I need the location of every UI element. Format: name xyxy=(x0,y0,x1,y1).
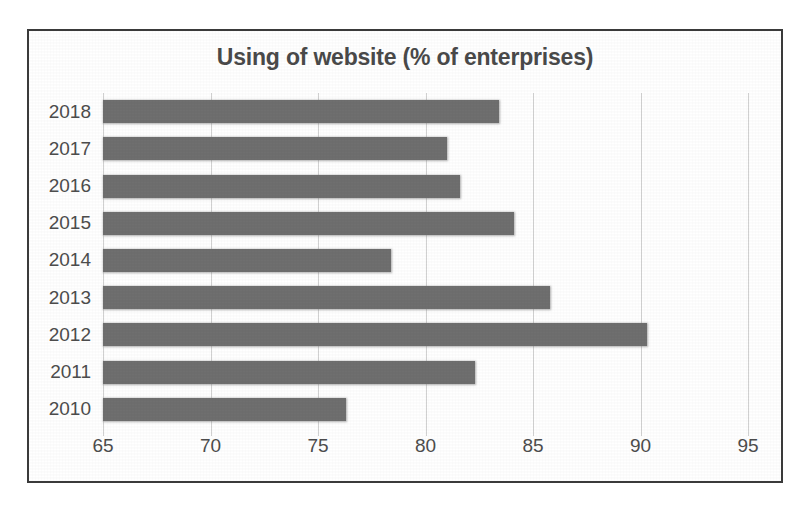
x-axis-label-65: 65 xyxy=(92,435,113,457)
x-axis-label-80: 80 xyxy=(415,435,436,457)
chart-frame: Using of website (% of enterprises) 2018… xyxy=(27,29,783,483)
bar-2018 xyxy=(103,100,499,123)
bar-2017 xyxy=(103,137,447,160)
x-axis-tick-labels: 65707580859095 xyxy=(103,435,748,467)
bar-2016 xyxy=(103,175,460,198)
y-axis-label-2010: 2010 xyxy=(49,391,91,428)
bar-row xyxy=(103,279,748,316)
bar-2014 xyxy=(103,249,391,272)
chart-title: Using of website (% of enterprises) xyxy=(29,44,781,71)
bar-row xyxy=(103,130,748,167)
y-axis-label-2011: 2011 xyxy=(50,354,91,391)
bar-2013 xyxy=(103,286,550,309)
y-axis-label-2018: 2018 xyxy=(49,93,91,130)
y-axis-label-2012: 2012 xyxy=(49,316,91,353)
y-axis-label-2015: 2015 xyxy=(49,205,91,242)
y-axis-label-2014: 2014 xyxy=(49,242,91,279)
bar-row xyxy=(103,205,748,242)
x-axis-label-90: 90 xyxy=(630,435,651,457)
bar-2015 xyxy=(103,212,514,235)
y-axis-label-2013: 2013 xyxy=(49,279,91,316)
bar-2010 xyxy=(103,398,346,421)
x-axis-label-70: 70 xyxy=(200,435,221,457)
bar-row xyxy=(103,391,748,428)
x-axis-label-95: 95 xyxy=(737,435,758,457)
bar-2011 xyxy=(103,361,475,384)
y-axis-label-2016: 2016 xyxy=(49,167,91,204)
bar-row xyxy=(103,316,748,353)
y-axis-category-labels: 201820172016201520142013201220112010 xyxy=(29,93,97,428)
bar-row xyxy=(103,167,748,204)
x-axis-label-75: 75 xyxy=(307,435,328,457)
bar-row xyxy=(103,354,748,391)
y-axis-label-2017: 2017 xyxy=(49,130,91,167)
plot-area xyxy=(103,93,748,428)
bar-2012 xyxy=(103,323,647,346)
gridline-95 xyxy=(748,93,749,436)
x-axis-label-85: 85 xyxy=(522,435,543,457)
bar-row xyxy=(103,242,748,279)
bar-row xyxy=(103,93,748,130)
